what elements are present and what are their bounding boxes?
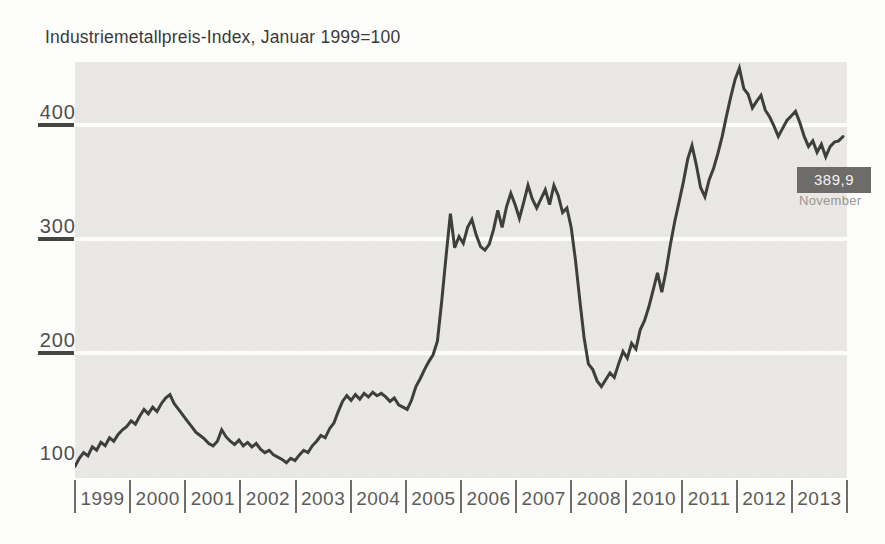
last-value-callout: 389,9 <box>797 167 871 193</box>
y-axis-tick-200 <box>38 351 74 355</box>
x-axis-label-2004: 2004 <box>351 486 406 512</box>
price-index-line <box>75 62 847 478</box>
x-axis-label-2008: 2008 <box>571 486 626 512</box>
x-axis-label-1999: 1999 <box>75 486 130 512</box>
x-axis-label-2013: 2013 <box>792 486 847 512</box>
x-axis-label-2001: 2001 <box>185 486 240 512</box>
x-axis-label-2000: 2000 <box>130 486 185 512</box>
y-axis-label-200: 200 <box>16 329 76 352</box>
x-axis-label-2003: 2003 <box>296 486 351 512</box>
chart-title: Industriemetallpreis-Index, Januar 1999=… <box>45 27 400 48</box>
y-axis-label-300: 300 <box>16 215 76 238</box>
x-axis-label-2006: 2006 <box>461 486 516 512</box>
y-axis-label-400: 400 <box>16 101 76 124</box>
x-axis-label-2010: 2010 <box>626 486 681 512</box>
x-axis-label-2007: 2007 <box>516 486 571 512</box>
last-value-month-label: November <box>799 193 861 208</box>
x-axis-label-2005: 2005 <box>406 486 461 512</box>
index-line-path <box>75 68 843 466</box>
chart-container: Industriemetallpreis-Index, Januar 1999=… <box>0 0 885 544</box>
x-axis-label-2012: 2012 <box>737 486 792 512</box>
y-axis-tick-400 <box>38 123 74 127</box>
x-axis-label-2011: 2011 <box>682 486 737 512</box>
x-axis-label-2002: 2002 <box>240 486 295 512</box>
y-axis-tick-300 <box>38 237 74 241</box>
y-axis-label-100: 100 <box>16 442 76 465</box>
